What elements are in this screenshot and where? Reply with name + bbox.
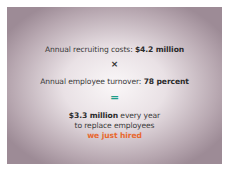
result-highlight: we just hired [7,131,222,140]
turnover-value: 78 percent [144,77,189,86]
result-line-2: to replace employees [7,121,222,130]
result-value: $3.3 million [69,111,118,120]
slide: Annual recruiting costs: $4.2 million × … [7,7,222,164]
result-line: $3.3 million every year [7,111,222,120]
recruiting-costs-line: Annual recruiting costs: $4.2 million [7,45,222,54]
multiply-icon: × [7,59,222,69]
turnover-label: Annual employee turnover: [40,77,143,86]
equals-icon: = [7,92,222,103]
recruiting-costs-value: $4.2 million [135,45,184,54]
turnover-line: Annual employee turnover: 78 percent [7,77,222,86]
result-suffix: every year [118,111,160,120]
recruiting-costs-label: Annual recruiting costs: [45,45,135,54]
